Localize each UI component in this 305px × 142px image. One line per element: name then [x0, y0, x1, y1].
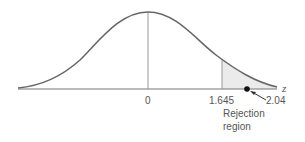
rejection-region-label-line2: region — [223, 121, 251, 132]
test-statistic-label: 2.04 — [266, 95, 286, 106]
rejection-region-label-line1: Rejection — [223, 108, 265, 119]
tick-label-critical: 1.645 — [209, 95, 234, 106]
z-axis-label: z — [281, 82, 287, 94]
normal-distribution-diagram: z 0 1.645 2.04 Rejection region — [0, 0, 305, 142]
arrow-head-icon — [250, 91, 256, 95]
tick-label-zero: 0 — [145, 95, 151, 106]
test-statistic-dot — [244, 86, 250, 92]
